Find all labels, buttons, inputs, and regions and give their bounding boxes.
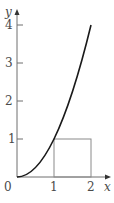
chart: y 4 3 2 1 0 1 2 x [0, 0, 114, 203]
origin-label: 0 [4, 180, 12, 194]
x-axis-arrow-icon [105, 175, 111, 180]
y-tick-label-3: 3 [5, 56, 13, 70]
y-tick-label-2: 2 [5, 94, 13, 108]
y-axis-label: y [4, 5, 12, 19]
y-tick-label-1: 1 [8, 132, 16, 146]
x-tick-label-2: 2 [87, 180, 95, 194]
x-axis-label: x [104, 180, 111, 194]
y-tick-label-4: 4 [5, 18, 13, 32]
x-tick-label-1: 1 [50, 180, 58, 194]
rectangle-annotation [54, 139, 91, 177]
y-axis-arrow-icon [15, 9, 20, 15]
